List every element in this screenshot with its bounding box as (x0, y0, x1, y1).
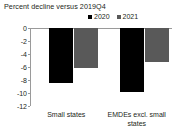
y-tick-mark (28, 93, 30, 94)
legend-label-2021: 2021 (123, 13, 139, 20)
y-tick-label: -2 (21, 38, 27, 45)
y-tick-mark (28, 80, 30, 81)
bar-group-small-states (31, 28, 102, 106)
legend-label-2020: 2020 (94, 13, 110, 20)
y-tick-mark (28, 54, 30, 55)
plot-area: 0-2-4-6-8-10-12 (30, 28, 172, 106)
bar-2020-emdes (120, 28, 144, 92)
y-tick-label: -12 (17, 103, 27, 110)
y-tick-label: -6 (21, 64, 27, 71)
y-tick-mark (28, 106, 30, 107)
x-label-emdes: EMDEs excl. small states (102, 110, 173, 128)
bar-group-emdes (102, 28, 173, 106)
chart-legend: 2020 2021 (88, 13, 138, 20)
x-label-small-states: Small states (31, 110, 102, 128)
y-tick-mark (28, 28, 30, 29)
y-tick-label: -10 (17, 90, 27, 97)
legend-entry-2021: 2021 (117, 13, 139, 20)
bar-2020-small-states (49, 28, 73, 83)
y-tick-label: -4 (21, 51, 27, 58)
legend-swatch-2021 (117, 15, 121, 19)
legend-entry-2020: 2020 (88, 13, 110, 20)
bar-groups (31, 28, 172, 106)
bar-2021-emdes (145, 28, 169, 62)
chart-title: Percent decline versus 2019Q4 (4, 2, 106, 11)
y-tick-mark (28, 67, 30, 68)
x-axis-labels: Small states EMDEs excl. small states (31, 110, 172, 128)
y-tick-mark (28, 41, 30, 42)
y-tick-label: 0 (23, 25, 27, 32)
chart-figure: Percent decline versus 2019Q4 2020 2021 … (0, 0, 175, 140)
legend-swatch-2020 (88, 15, 92, 19)
bar-2021-small-states (74, 28, 98, 68)
y-tick-label: -8 (21, 77, 27, 84)
